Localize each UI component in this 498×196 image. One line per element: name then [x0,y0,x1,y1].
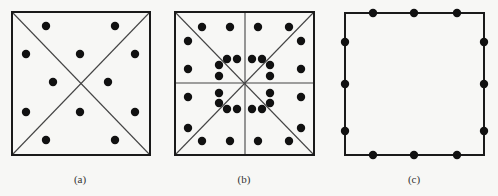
node-dot [297,65,305,73]
node-dot [215,61,223,69]
node-dot [42,22,50,30]
node-dot [480,38,488,46]
node-dot [297,37,305,45]
square-boundary [345,13,484,155]
node-dot [410,9,418,17]
node-dot [297,124,305,132]
panel-b [175,12,314,155]
node-dot [226,137,234,145]
node-dot [266,61,274,69]
node-dot [258,105,266,113]
node-dot [297,93,305,101]
node-dot [341,38,349,46]
node-dot [22,50,30,58]
node-dot [248,105,256,113]
diagram-canvas [0,0,498,196]
caption-c: (c) [408,173,420,185]
node-dot [410,151,418,159]
node-dot [111,136,119,144]
node-dot [266,99,274,107]
node-dot [226,23,234,31]
node-dot [184,93,192,101]
node-dot [131,50,139,58]
node-dot [480,127,488,135]
caption-a: (a) [74,173,86,185]
node-dot [111,22,119,30]
node-dot [258,55,266,63]
node-dot [254,137,262,145]
panel-c [341,9,488,159]
node-dot [49,78,57,86]
node-dot [223,105,231,113]
node-dot [341,80,349,88]
node-dot [369,9,377,17]
node-dot [198,137,206,145]
node-dot [184,65,192,73]
node-dot [266,89,274,97]
node-dot [184,124,192,132]
node-dot [223,55,231,63]
node-dot [215,99,223,107]
node-dot [198,23,206,31]
node-dot [254,23,262,31]
node-dot [248,55,256,63]
panel-a [12,12,150,155]
node-dot [369,151,377,159]
node-dot [76,108,84,116]
node-dot [22,108,30,116]
node-dot [285,137,293,145]
caption-b: (b) [238,173,251,185]
node-dot [42,136,50,144]
node-dot [341,127,349,135]
node-dot [233,55,241,63]
node-dot [285,23,293,31]
node-dot [480,80,488,88]
node-dot [453,151,461,159]
node-dot [76,50,84,58]
node-dot [215,89,223,97]
node-dot [215,72,223,80]
node-dot [184,37,192,45]
node-dot [131,108,139,116]
node-dot [453,9,461,17]
node-dot [233,105,241,113]
node-dot [266,72,274,80]
node-dot [104,78,112,86]
